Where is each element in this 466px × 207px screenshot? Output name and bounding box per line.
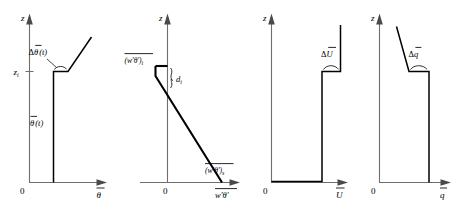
wind-jump-brace	[324, 66, 339, 70]
wind-axis-arrowhead	[338, 179, 349, 185]
flux-top-label: (w'θ')i	[125, 56, 144, 66]
panel1-x-axis-label: θ	[97, 190, 102, 200]
panel-heat-flux: z 0 w'θ' (w'θ')i (w'θ')s di	[125, 13, 241, 200]
panel-humidity: z 0 q Δq	[370, 13, 451, 200]
humidity-jump-brace	[411, 66, 428, 70]
theta-jump-leader	[47, 59, 57, 68]
theta-jump-label: Δθ(t)	[29, 47, 48, 57]
theta-mixed-annotation: θ(t)	[30, 116, 43, 128]
theta-axis-arrowhead	[97, 179, 108, 185]
panel4-origin-label: 0	[371, 186, 376, 196]
wind-jump-label: ΔU	[321, 49, 333, 59]
panel3-x-axis-label-group: U	[336, 188, 345, 200]
panel2-x-axis-label-group: w'θ'	[215, 189, 237, 200]
flux-top-annotation: (w'θ')i	[125, 54, 154, 67]
panel3-x-axis-label: U	[336, 190, 343, 200]
flux-surface-annotation: (w'θ')s	[205, 164, 234, 177]
theta-jump-annotation: Δθ(t)	[29, 45, 48, 57]
panel4-x-axis-label-group: q	[440, 188, 447, 200]
z-axis-arrowhead-2	[164, 14, 171, 25]
entrainment-depth-brace	[171, 68, 173, 88]
theta-mixed-label: θ(t)	[30, 118, 43, 128]
panel3-origin-label: 0	[263, 186, 268, 196]
panel4-z-axis-label: z	[370, 13, 375, 23]
z-axis-arrowhead-4	[376, 14, 383, 25]
figure-container: z zi 0 θ Δθ(t) θ(t) z 0	[0, 0, 466, 207]
panel-theta: z zi 0 θ Δθ(t) θ(t)	[13, 13, 108, 200]
z-axis-arrowhead-3	[268, 14, 275, 25]
profiles-svg: z zi 0 θ Δθ(t) θ(t) z 0	[0, 0, 466, 207]
panel4-x-axis-label: q	[440, 190, 445, 200]
panel2-z-axis-label: z	[158, 13, 163, 23]
flux-axis-arrowhead	[230, 179, 241, 185]
wind-jump-annotation: ΔU	[321, 47, 336, 59]
flux-surface-label: (w'θ')s	[205, 166, 225, 176]
panel2-x-axis-label: w'θ'	[215, 190, 229, 200]
entrainment-depth-label: di	[176, 74, 182, 85]
panel3-z-axis-label: z	[262, 13, 267, 23]
theta-profile-line	[54, 37, 92, 183]
panel-wind: z 0 U ΔU	[262, 13, 348, 200]
panel1-x-axis-label-group: θ	[97, 188, 105, 200]
panel1-z-axis-label: z	[20, 13, 25, 23]
z-axis-arrowhead-1	[26, 14, 33, 25]
humidity-jump-annotation: Δq	[409, 47, 422, 59]
panel1-zi-label: zi	[13, 67, 20, 79]
panel1-origin-label: 0	[20, 186, 25, 196]
panel2-origin-label: 0	[163, 186, 168, 196]
humidity-jump-label: Δq	[409, 49, 419, 59]
humidity-axis-arrowhead	[441, 179, 452, 185]
